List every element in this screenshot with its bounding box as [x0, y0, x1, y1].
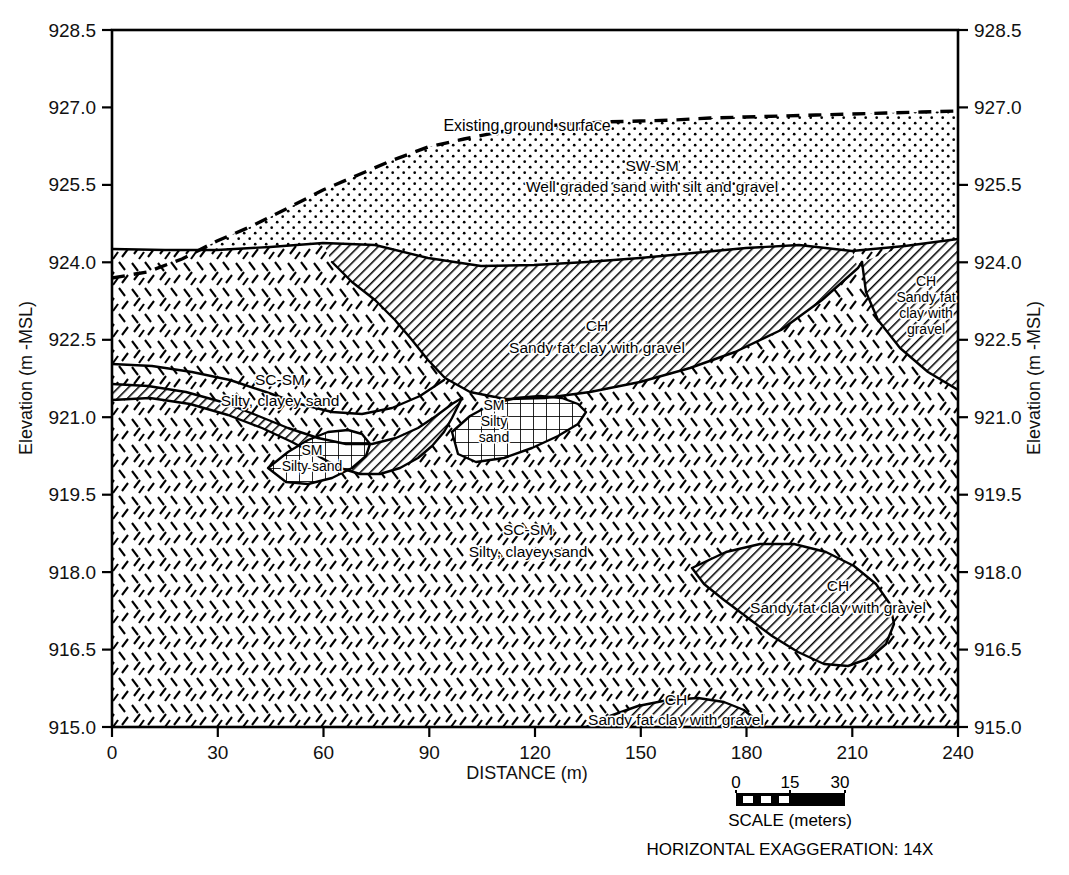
label-sc-sm-lower-code: SC-SM: [503, 521, 553, 538]
y-tick-right-927: 927.0: [974, 97, 1022, 118]
label-sc-sm-lower-name: Silty, clayey sand: [469, 543, 588, 560]
label-sw-sm-name: Well graded sand with silt and gravel: [526, 178, 778, 195]
scale-bar-segments: [743, 796, 789, 803]
y-tick-right-922_5: 922.5: [974, 329, 1022, 350]
x-tick-120: 120: [519, 742, 551, 763]
label-ch-lower-right-code: CH: [827, 577, 849, 594]
y-tick-right-921: 921.0: [974, 407, 1022, 428]
x-tick-30: 30: [207, 742, 228, 763]
y-tick-left-918: 918.0: [48, 562, 96, 583]
scale-tick-30: 30: [831, 773, 850, 792]
x-tick-240: 240: [942, 742, 974, 763]
x-tick-150: 150: [625, 742, 657, 763]
y-axis-title-left: Elevation (m -MSL): [16, 301, 36, 455]
y-tick-left-924: 924.0: [48, 252, 96, 273]
x-tick-0: 0: [107, 742, 118, 763]
y-tick-left-919_5: 919.5: [48, 484, 96, 505]
label-sm-centre-line2: Silty: [481, 413, 507, 429]
y-tick-right-925_5: 925.5: [974, 174, 1022, 195]
scale-tick-0: 0: [731, 773, 740, 792]
geologic-cross-section-figure: 915.0 916.5 918.0 919.5 921.0 922.5 924.…: [0, 0, 1069, 875]
label-sm-left-code: SM: [302, 442, 323, 458]
label-ch-right-code: CH: [916, 273, 936, 289]
label-sm-centre-line3: sand: [479, 429, 509, 445]
y-axis-title-right: Elevation (m -MSL): [1024, 301, 1044, 455]
y-tick-right-928_5: 928.5: [974, 20, 1022, 41]
label-sc-sm-upper-name: Silty, clayey sand: [221, 392, 340, 409]
x-tick-210: 210: [836, 742, 868, 763]
x-axis-title: DISTANCE (m): [466, 763, 588, 783]
y-tick-left-922_5: 922.5: [48, 329, 96, 350]
y-tick-right-919_5: 919.5: [974, 484, 1022, 505]
x-tick-90: 90: [419, 742, 440, 763]
label-sw-sm-code: SW-SM: [625, 157, 678, 174]
label-ch-lower-right-name: Sandy fat clay with gravel: [750, 599, 926, 616]
x-tick-60: 60: [313, 742, 334, 763]
y-tick-right-916_5: 916.5: [974, 639, 1022, 660]
y-tick-left-916_5: 916.5: [48, 639, 96, 660]
label-sm-left-name: Silty sand: [282, 458, 343, 474]
label-ch-bottom-code: CH: [665, 691, 687, 708]
label-ch-right-line2: Sandy fat: [896, 289, 955, 305]
y-tick-right-915: 915.0: [974, 717, 1022, 738]
label-ch-bottom-name: Sandy fat clay with gravel: [588, 711, 764, 728]
y-tick-left-927: 927.0: [48, 97, 96, 118]
y-tick-left-925_5: 925.5: [48, 174, 96, 195]
scale-caption: SCALE (meters): [728, 811, 852, 830]
y-tick-left-928_5: 928.5: [48, 20, 96, 41]
label-ch-central-code: CH: [586, 317, 608, 334]
y-tick-left-921: 921.0: [48, 407, 96, 428]
label-ch-central-name: Sandy fat clay with gravel: [509, 339, 685, 356]
label-ch-right-line3: clay with: [899, 305, 953, 321]
y-tick-right-918: 918.0: [974, 562, 1022, 583]
horizontal-exaggeration-note: HORIZONTAL EXAGGERATION: 14X: [647, 840, 934, 859]
y-tick-right-924: 924.0: [974, 252, 1022, 273]
scale-tick-15: 15: [781, 773, 800, 792]
label-sm-centre-code: SM: [484, 397, 505, 413]
y-tick-left-915: 915.0: [48, 717, 96, 738]
label-sc-sm-upper-code: SC-SM: [255, 371, 305, 388]
existing-ground-surface-label: Existing ground surface: [443, 117, 610, 134]
x-tick-180: 180: [731, 742, 763, 763]
label-ch-right-line4: gravel: [907, 321, 945, 337]
